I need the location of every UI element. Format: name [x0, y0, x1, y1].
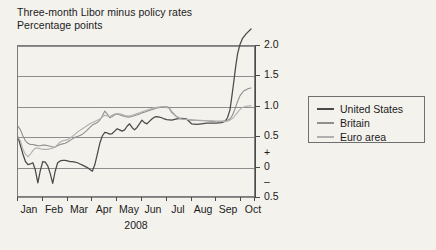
legend-label-euro-area: Euro area: [340, 131, 386, 143]
y-axis-plus-sign: +: [264, 147, 270, 158]
x-tick-end: [254, 197, 255, 201]
x-tick-label-oct: Oct: [245, 203, 261, 215]
x-tick-sep: [215, 197, 216, 201]
y-tick-0: [255, 45, 260, 46]
y-tick-1: [255, 75, 260, 76]
plot-area: [17, 45, 255, 197]
legend-item-britain: Britain: [317, 116, 424, 129]
legend-label-united-states: United States: [340, 103, 403, 115]
y-tick-label-4: 0: [264, 161, 270, 172]
legend-label-britain: Britain: [340, 117, 370, 129]
x-tick-jul: [166, 197, 167, 201]
x-tick-label-may: May: [119, 203, 139, 215]
x-tick-label-mar: Mar: [70, 203, 88, 215]
x-tick-label-jun: Jun: [145, 203, 162, 215]
legend-item-euro-area: Euro area: [317, 130, 424, 143]
y-tick-label-2: 1.0: [264, 100, 279, 111]
series-line-united-states: [18, 29, 251, 183]
x-tick-may: [116, 197, 117, 201]
x-axis-title: 2008: [124, 219, 147, 231]
legend-item-united-states: United States: [317, 102, 424, 115]
chart-title: Three-month Libor minus policy rates: [17, 6, 192, 19]
legend-swatch-britain: [317, 122, 334, 124]
y-tick-label-5: 0.5: [264, 191, 279, 202]
y-axis-minus-sign: –: [264, 176, 270, 187]
chart-figure: Three-month Libor minus policy rates Per…: [0, 0, 436, 250]
x-tick-label-sep: Sep: [219, 203, 238, 215]
series-lines: [17, 24, 257, 200]
legend-swatch-euro-area: [317, 136, 334, 138]
x-tick-label-jul: Jul: [171, 203, 184, 215]
y-tick-label-0: 2.0: [264, 39, 279, 50]
x-tick-label-jan: Jan: [21, 203, 38, 215]
y-tick-4: [255, 167, 260, 168]
chart-legend: United States Britain Euro area: [308, 96, 425, 143]
y-axis-line: [255, 45, 256, 197]
legend-swatch-united-states: [317, 108, 334, 110]
x-tick-label-feb: Feb: [45, 203, 63, 215]
x-tick-mar: [67, 197, 68, 201]
x-tick-apr: [91, 197, 92, 201]
y-tick-5: [255, 197, 260, 198]
x-tick-aug: [191, 197, 192, 201]
y-tick-2: [255, 106, 260, 107]
y-tick-label-3: 0.5: [264, 130, 279, 141]
series-line-euro-area: [18, 106, 251, 157]
x-tick-feb: [42, 197, 43, 201]
x-tick-jun: [141, 197, 142, 201]
x-tick-label-aug: Aug: [194, 203, 213, 215]
y-tick-label-1: 1.5: [264, 69, 279, 80]
x-tick-oct: [240, 197, 241, 201]
y-tick-3: [255, 136, 260, 137]
series-line-britain: [18, 88, 251, 147]
x-tick-jan: [17, 197, 18, 201]
x-tick-label-apr: Apr: [96, 203, 112, 215]
